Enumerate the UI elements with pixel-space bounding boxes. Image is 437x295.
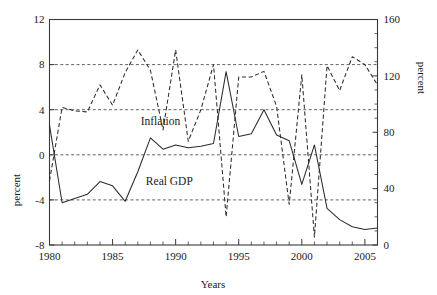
x-axis-tick-label: 1985: [102, 250, 125, 262]
x-axis-tick-label: 1995: [228, 250, 251, 262]
left-axis-tick-label: 12: [34, 13, 45, 25]
left-axis-title: percent: [10, 174, 22, 206]
left-axis-tick-label: 4: [39, 104, 45, 116]
left-axis-tick-label: -8: [35, 239, 45, 251]
right-axis-tick-label: 40: [384, 182, 396, 194]
x-axis-tick-label: 1980: [39, 250, 62, 262]
right-axis-tick-label: 0: [384, 239, 390, 251]
dual-axis-line-chart: -8-404812 04080120160 198019851990199520…: [0, 0, 437, 295]
series-annotation-inflation: Inflation: [141, 115, 181, 127]
left-axis-tick-label: 8: [39, 58, 45, 70]
chart-figure: -8-404812 04080120160 198019851990199520…: [0, 0, 437, 295]
x-axis-tick-label: 2005: [354, 250, 377, 262]
left-axis-tick-label: 0: [39, 149, 45, 161]
x-axis-title: Years: [201, 278, 226, 290]
series-annotation-real-gdp: Real GDP: [146, 175, 193, 187]
x-axis-tick-label: 2000: [291, 250, 314, 262]
right-axis-tick-label: 160: [384, 13, 401, 25]
x-axis-tick-label: 1990: [165, 250, 188, 262]
right-axis-title: percent: [416, 62, 428, 94]
right-axis-tick-label: 80: [384, 126, 396, 138]
right-axis-tick-label: 120: [384, 70, 401, 82]
left-axis-tick-label: -4: [35, 194, 45, 206]
